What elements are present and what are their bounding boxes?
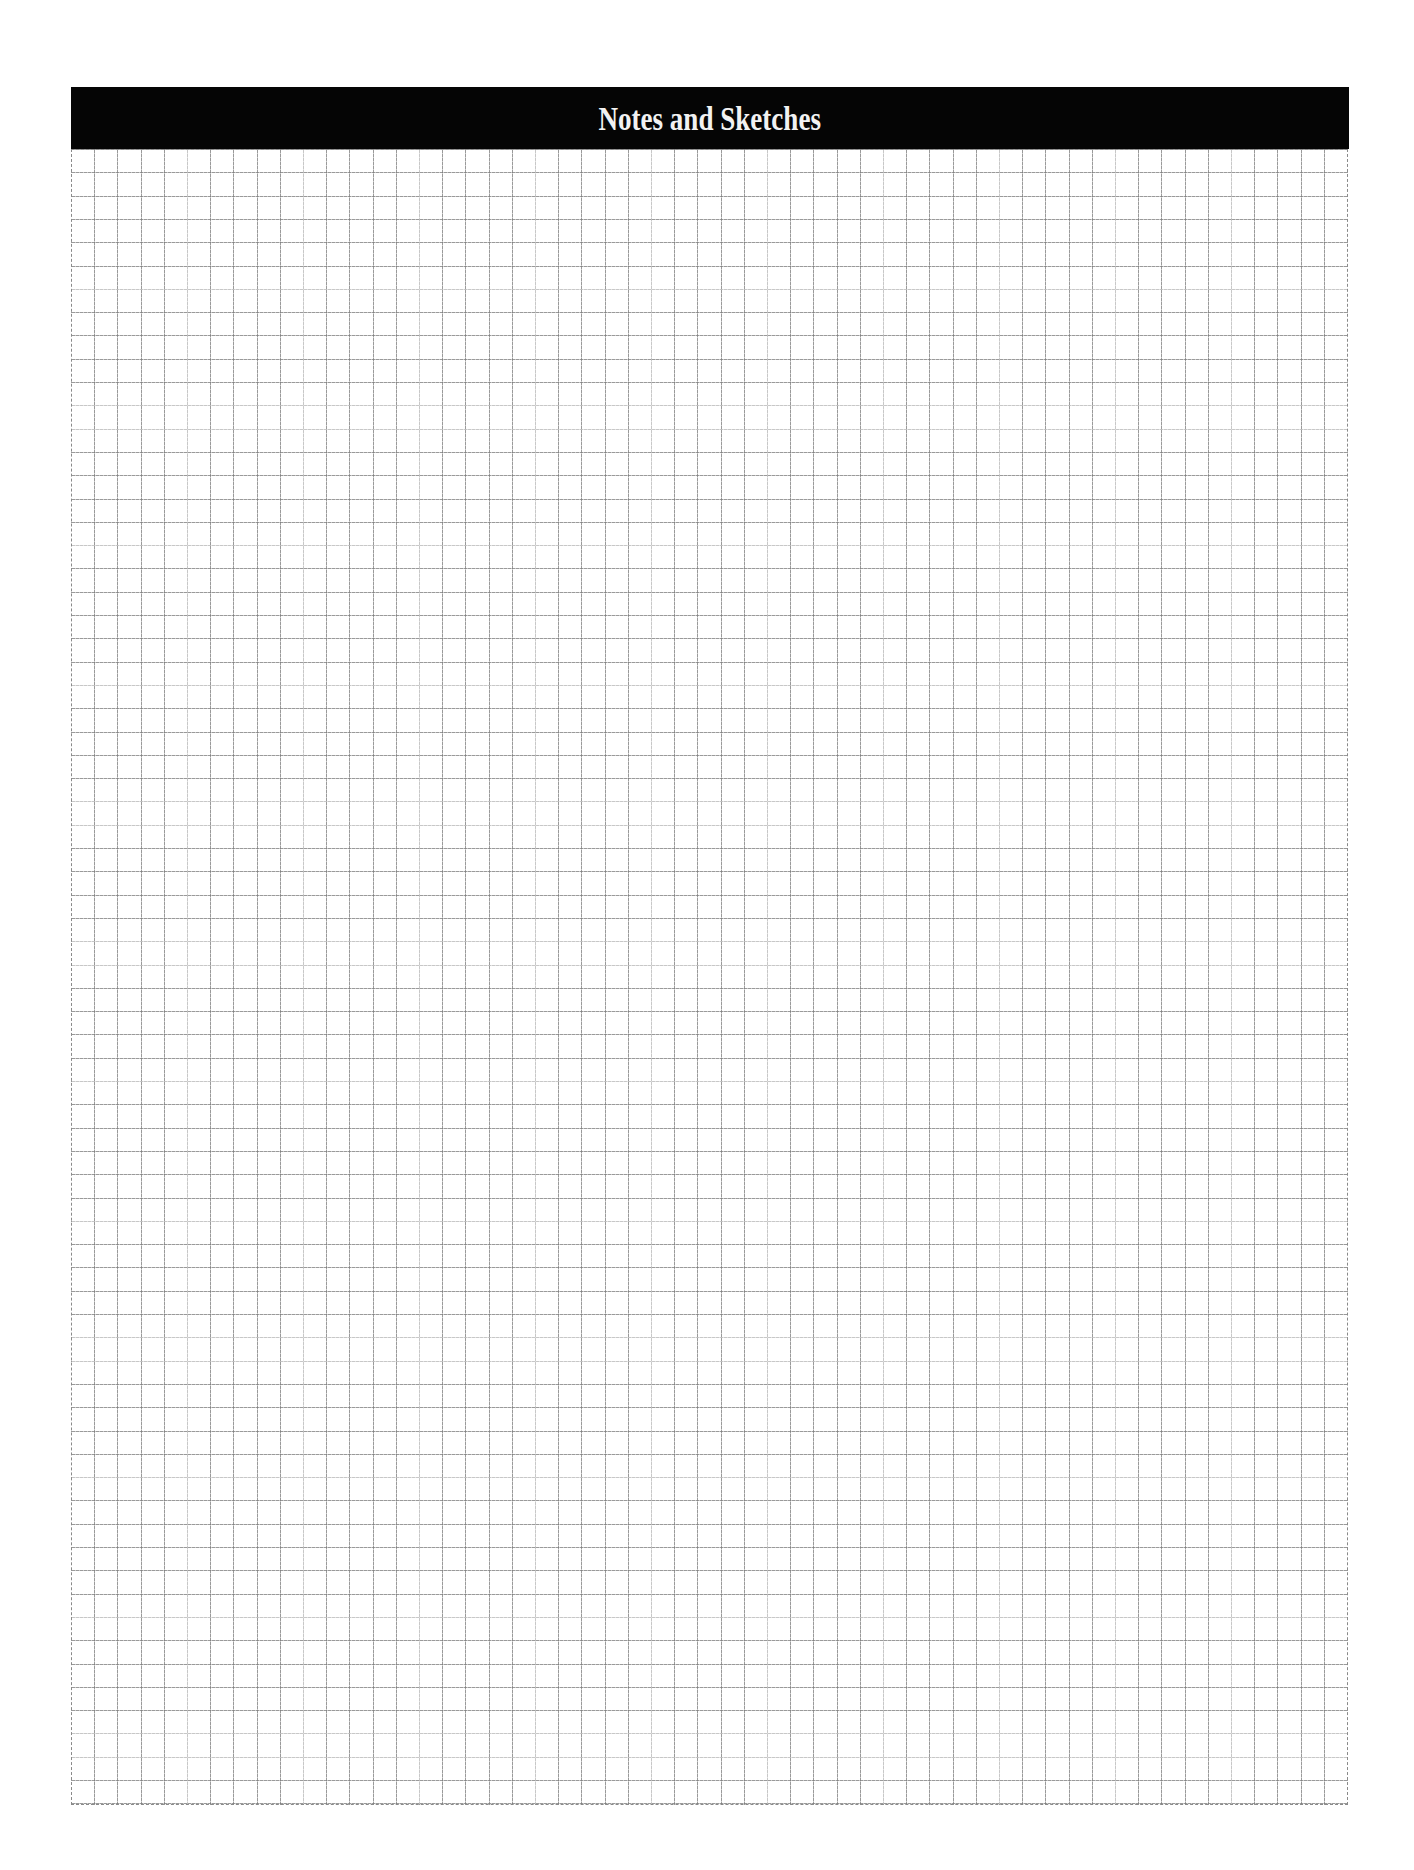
sketch-grid[interactable] (71, 149, 1348, 1805)
notes-page: Notes and Sketches (0, 0, 1414, 1870)
header-bar: Notes and Sketches (71, 87, 1349, 149)
page-title: Notes and Sketches (599, 103, 822, 136)
